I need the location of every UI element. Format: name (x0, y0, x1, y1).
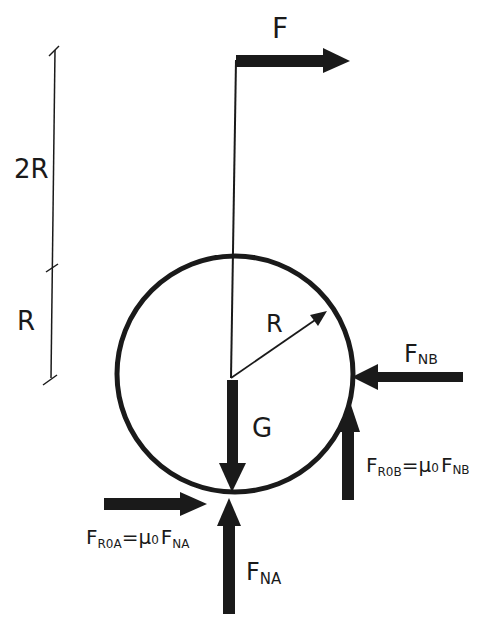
dimension-line (43, 46, 59, 385)
friction-force-a-label: FR0A=μ0FNA (86, 525, 190, 551)
dimension-label-r: R (17, 306, 35, 336)
weight-g-arrow (219, 380, 246, 492)
normal-force-a-arrow (217, 498, 241, 614)
friction-force-b-arrow (336, 402, 360, 500)
force-f-label: F (272, 12, 288, 45)
dimension-label-2r: 2R (14, 154, 49, 184)
normal-force-a-label: FNA (246, 558, 282, 588)
friction-force-b-label: FR0B=μ0FNB (366, 453, 470, 479)
weight-g-label: G (252, 413, 272, 443)
rope-line (231, 60, 236, 378)
radius-label: R (266, 310, 283, 338)
friction-force-a-arrow (104, 492, 207, 516)
force-f-arrow (236, 48, 350, 73)
normal-force-b-label: FNB (404, 340, 438, 368)
free-body-diagram: 2R R F R G FNA FR0A=μ0FNA (0, 0, 499, 624)
